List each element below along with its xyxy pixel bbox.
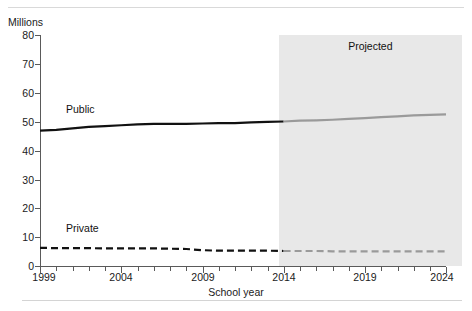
public-line-projected (284, 114, 446, 121)
public-series-label: Public (66, 103, 95, 115)
chart-figure: Projected Millions School year 80 70 60 … (0, 0, 472, 311)
private-series-label: Private (66, 222, 99, 234)
public-line-actual (40, 121, 284, 130)
private-line-actual (40, 248, 284, 251)
series-lines (0, 0, 472, 311)
